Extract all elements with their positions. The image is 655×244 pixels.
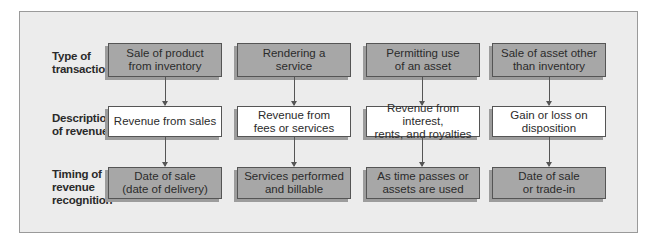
row-label-description-of-revenue: Description of revenue — [52, 112, 113, 138]
type-box-permitting-use: Permitting use of an asset — [366, 43, 480, 77]
row-label-type-of-transaction: Type of transaction — [52, 50, 112, 76]
timing-box-time-passes: As time passes or assets are used — [366, 167, 480, 199]
arrow-down-icon — [422, 77, 423, 105]
arrow-down-icon — [549, 137, 550, 166]
type-box-sale-of-product: Sale of product from inventory — [108, 43, 222, 77]
description-box-gain-or-loss: Gain or loss on disposition — [492, 106, 606, 137]
row-label-timing-of-recognition: Timing of revenue recognition — [52, 168, 112, 207]
timing-box-date-of-sale-trade-in: Date of sale or trade-in — [492, 167, 606, 199]
arrow-down-icon — [294, 137, 295, 166]
arrow-down-icon — [549, 77, 550, 105]
type-box-sale-of-asset: Sale of asset other than inventory — [492, 43, 606, 77]
description-box-revenue-from-fees: Revenue from fees or services — [237, 106, 351, 137]
description-box-revenue-from-interest: Revenue from interest, rents, and royalt… — [366, 106, 480, 137]
description-box-revenue-from-sales: Revenue from sales — [108, 106, 222, 137]
type-box-rendering-service: Rendering a service — [237, 43, 351, 77]
arrow-down-icon — [422, 137, 423, 166]
arrow-down-icon — [165, 137, 166, 166]
arrow-down-icon — [165, 77, 166, 105]
timing-box-services-performed: Services performed and billable — [237, 167, 351, 199]
arrow-down-icon — [294, 77, 295, 105]
timing-box-date-of-sale: Date of sale (date of delivery) — [108, 167, 222, 199]
